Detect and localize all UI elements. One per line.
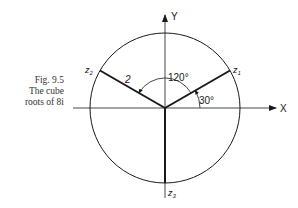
angle-label-30: 30° bbox=[199, 95, 214, 106]
root-vector-z2 bbox=[100, 71, 165, 109]
radius-label: 2 bbox=[124, 74, 131, 85]
root-label-z3: z3 bbox=[167, 188, 177, 199]
x-axis-label: X bbox=[280, 103, 287, 114]
y-axis-label: Y bbox=[171, 11, 178, 22]
cube-roots-diagram: Y X 120° 30° 2 z1 z2 z3 bbox=[0, 0, 298, 208]
root-label-z1: z1 bbox=[232, 65, 241, 76]
root-label-z2: z2 bbox=[84, 65, 94, 76]
angle-label-120: 120° bbox=[168, 72, 189, 83]
